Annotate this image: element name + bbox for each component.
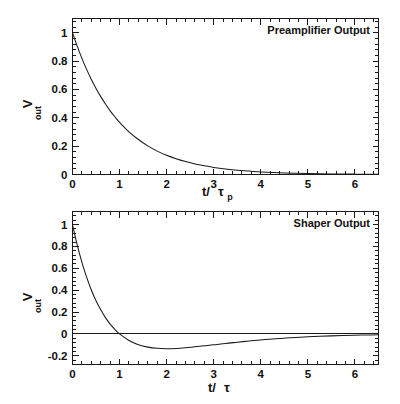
preamplifier-y-tick-labels: 00.20.40.60.81 bbox=[52, 27, 69, 181]
shaper-y-axis-title: V out bbox=[20, 292, 43, 313]
preamplifier-plot-frame bbox=[73, 19, 379, 175]
figure-container: 0123456 00.20.40.60.81 V out t/ τ p Prea… bbox=[0, 0, 400, 404]
y-tick-label: 0.2 bbox=[52, 306, 68, 318]
preamplifier-tick-marks bbox=[73, 19, 379, 175]
shaper-plot: 0123456 -0.200.20.40.60.81 V out t/ τ Sh… bbox=[0, 202, 400, 404]
y-tick-label: 0.4 bbox=[52, 112, 69, 124]
x-tick-label: 1 bbox=[116, 178, 123, 190]
preamplifier-x-axis-title-tau: τ bbox=[218, 184, 224, 199]
x-tick-label: 5 bbox=[305, 368, 312, 380]
preamplifier-x-axis-title: t/ τ p bbox=[202, 184, 233, 202]
y-tick-label: 0.2 bbox=[52, 140, 68, 152]
y-tick-label: 0.6 bbox=[52, 83, 68, 95]
shaper-annotation-label: Shaper Output bbox=[294, 217, 371, 229]
y-tick-label: 0 bbox=[61, 169, 67, 181]
preamplifier-decay-curve bbox=[73, 33, 379, 175]
preamplifier-x-axis-title-main: t/ bbox=[202, 184, 210, 199]
x-tick-label: 1 bbox=[116, 368, 123, 380]
shaper-tick-marks bbox=[73, 212, 379, 365]
y-tick-label: 0.8 bbox=[52, 55, 69, 67]
shaper-plot-frame bbox=[73, 212, 379, 365]
x-tick-label: 2 bbox=[163, 368, 169, 380]
x-tick-label: 4 bbox=[258, 178, 265, 190]
x-tick-label: 0 bbox=[69, 178, 75, 190]
x-tick-label: 6 bbox=[352, 368, 358, 380]
shaper-x-tick-labels: 0123456 bbox=[69, 368, 358, 380]
chart-panel-preamplifier: 0123456 00.20.40.60.81 V out t/ τ p Prea… bbox=[0, 0, 400, 202]
x-tick-label: 3 bbox=[211, 368, 217, 380]
shaper-x-axis-title-main: t/ bbox=[208, 380, 216, 395]
x-tick-label: 3 bbox=[211, 178, 217, 190]
y-tick-label: 1 bbox=[61, 219, 68, 231]
y-tick-label: 0.8 bbox=[52, 240, 69, 252]
y-tick-label: 0 bbox=[61, 328, 67, 340]
shaper-bipolar-curve bbox=[73, 225, 379, 349]
y-tick-label: 0.4 bbox=[52, 284, 69, 296]
x-tick-label: 0 bbox=[69, 368, 75, 380]
x-tick-label: 2 bbox=[163, 178, 169, 190]
shaper-y-axis-title-sub: out bbox=[33, 299, 43, 313]
preamplifier-y-axis-title: V out bbox=[20, 99, 43, 120]
chart-panel-shaper: 0123456 -0.200.20.40.60.81 V out t/ τ Sh… bbox=[0, 202, 400, 404]
x-tick-label: 6 bbox=[352, 178, 358, 190]
preamplifier-plot: 0123456 00.20.40.60.81 V out t/ τ p Prea… bbox=[0, 0, 400, 202]
y-tick-label: 0.6 bbox=[52, 262, 68, 274]
preamplifier-x-tick-labels: 0123456 bbox=[69, 178, 358, 190]
y-tick-label: -0.2 bbox=[48, 350, 68, 362]
y-tick-label: 1 bbox=[61, 27, 68, 39]
x-tick-label: 5 bbox=[305, 178, 312, 190]
shaper-x-axis-title-tau: τ bbox=[224, 380, 230, 395]
preamplifier-annotation-label: Preamplifier Output bbox=[267, 24, 370, 36]
shaper-x-axis-title: t/ τ bbox=[208, 380, 230, 395]
preamplifier-y-axis-title-sub: out bbox=[33, 106, 43, 120]
preamplifier-x-axis-title-sub: p bbox=[227, 192, 233, 202]
shaper-y-tick-labels: -0.200.20.40.60.81 bbox=[48, 219, 68, 362]
x-tick-label: 4 bbox=[258, 368, 265, 380]
